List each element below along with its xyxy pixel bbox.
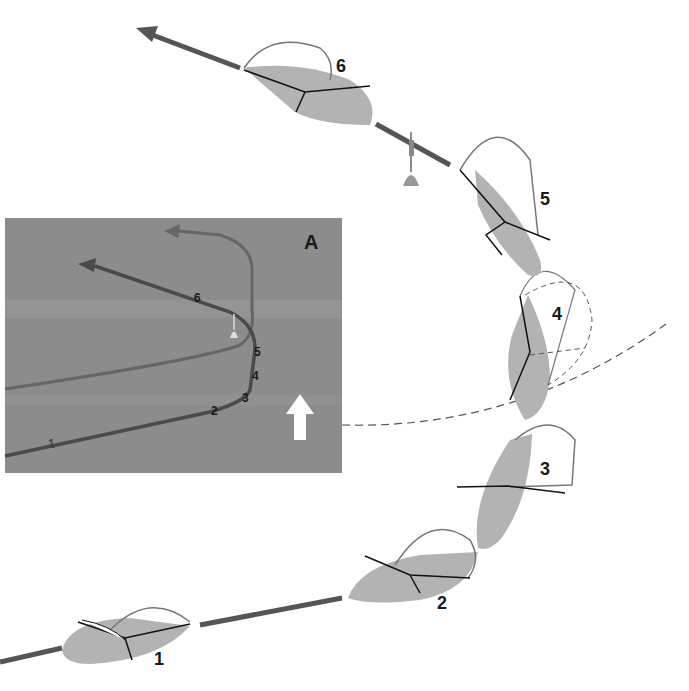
sailing-diagram — [0, 0, 689, 691]
boat-2 — [348, 529, 478, 602]
boat-5 — [460, 137, 550, 276]
inset-pos-6: 6 — [194, 292, 201, 304]
boat-1-label: 1 — [154, 650, 164, 668]
inset-pos-3: 3 — [242, 392, 249, 404]
boat-1 — [62, 608, 190, 664]
inset-pos-5: 5 — [254, 346, 261, 358]
inset-map — [5, 218, 342, 473]
boat-3 — [457, 425, 575, 549]
dashed-course — [342, 324, 666, 425]
inset-pos-4: 4 — [252, 370, 259, 382]
inset-pos-2: 2 — [211, 405, 218, 417]
inset-pos-1: 1 — [48, 438, 55, 450]
boat-4 — [508, 271, 592, 420]
boat-3-label: 3 — [540, 460, 550, 478]
boat-4-label: 4 — [552, 305, 562, 323]
boat-6 — [244, 42, 373, 125]
inset-title: A — [304, 232, 318, 252]
boat-5-label: 5 — [540, 190, 550, 208]
boat-6-label: 6 — [336, 57, 346, 75]
boat-2-label: 2 — [437, 594, 447, 612]
